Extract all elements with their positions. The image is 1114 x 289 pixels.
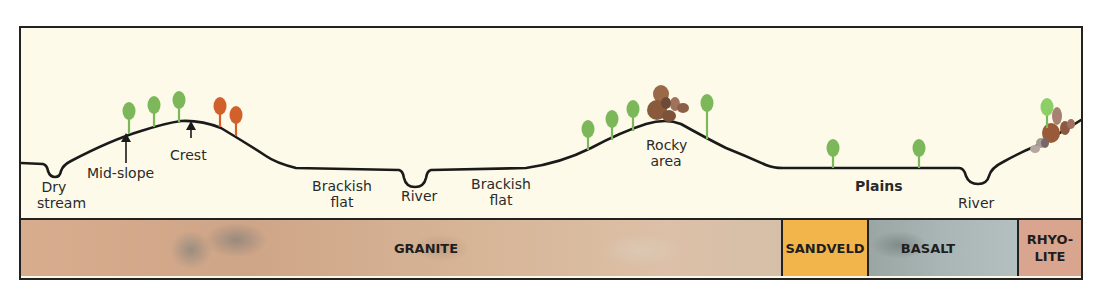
rocky-area-label: Rocky area	[646, 137, 686, 169]
rocky-area-label-line2: area	[646, 153, 686, 169]
geology-band-basalt: BASALT	[867, 218, 1017, 276]
dry-stream-label-line2: stream	[37, 195, 71, 211]
sandveld-label: SANDVELD	[785, 240, 864, 257]
crest-arrow-icon	[186, 121, 196, 138]
rocky-area-label-line1: Rocky	[646, 137, 686, 153]
tree-icon	[913, 139, 926, 168]
dry-stream-label: Dry stream	[37, 179, 71, 211]
dry-stream-label-line1: Dry	[37, 179, 71, 195]
rhyolite-label: RHYO- LITE	[1027, 231, 1074, 265]
river-label: River	[401, 188, 437, 204]
geology-band-rhyolite: RHYO- LITE	[1017, 218, 1081, 276]
rhyolite-label-line2: LITE	[1027, 248, 1074, 265]
brackish-flat-label-line1: Brackish	[307, 178, 377, 194]
terrain-profile	[21, 28, 1081, 218]
geology-band-sandveld: SANDVELD	[781, 218, 867, 276]
brackish-flat-label: Brackish flat	[307, 178, 377, 210]
tree-icon	[827, 139, 840, 168]
crest-label: Crest	[170, 147, 207, 163]
tree-icon	[701, 94, 714, 139]
tree-icon	[173, 91, 186, 122]
basalt-label: BASALT	[901, 240, 955, 257]
brackish-flat-label-line2: flat	[307, 194, 377, 210]
tree-icon	[582, 120, 595, 150]
cross-section-frame: Dry stream Mid-slope Crest Brackish flat…	[19, 26, 1083, 280]
brackish-flat-2-label-line1: Brackish	[466, 176, 536, 192]
tree-icon	[123, 102, 136, 134]
tree-icon	[148, 96, 161, 127]
outcrop-rocks-icon	[1030, 107, 1075, 153]
rocky-area-boulders-icon	[647, 85, 689, 122]
plains-label: Plains	[855, 178, 903, 194]
geology-band-granite: GRANITE	[21, 218, 781, 276]
mid-slope-label: Mid-slope	[87, 165, 154, 181]
orange-tree-icon	[230, 106, 243, 136]
granite-label: GRANITE	[394, 240, 458, 257]
landscape-profile-panel: Dry stream Mid-slope Crest Brackish flat…	[21, 28, 1081, 218]
brackish-flat-2-label-line2: flat	[466, 192, 536, 208]
river-label-2: River	[958, 195, 994, 211]
orange-tree-icon	[214, 97, 227, 127]
brackish-flat-label-2: Brackish flat	[466, 176, 536, 208]
rhyolite-label-line1: RHYO-	[1027, 231, 1074, 248]
